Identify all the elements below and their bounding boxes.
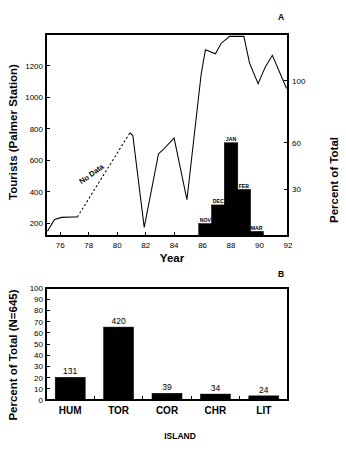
panel-b-category-label: COR (156, 405, 179, 416)
panel-b-bar (55, 377, 85, 400)
figure-background (0, 0, 346, 452)
panel-b-bar (104, 327, 134, 400)
inset-bar (224, 143, 238, 236)
y-tick-label: 50 (34, 340, 43, 349)
panel-b-category-label: TOR (108, 405, 130, 416)
panel-b-bar-count-label: 39 (162, 382, 172, 392)
panel-b-category-label: HUM (59, 405, 82, 416)
panel-b-bar (200, 394, 230, 400)
inset-bar-label: MAR (251, 225, 263, 231)
y2-tick-label: 30 (292, 185, 301, 194)
x-tick-label: 90 (255, 241, 264, 250)
y-tick-label: 30 (34, 362, 43, 371)
y-tick-label: 0 (39, 396, 44, 405)
panel-b-y-axis-title: Percent of Total (N=645) (7, 289, 19, 420)
inset-bar (212, 205, 226, 236)
y-tick-label: 70 (34, 318, 43, 327)
x-tick-label: 88 (227, 241, 236, 250)
inset-bar (199, 224, 213, 236)
x-tick-label: 86 (198, 241, 207, 250)
panel-b-category-label: LIT (256, 405, 271, 416)
panel-a-label: A (278, 12, 284, 22)
panel-b-bar-count-label: 420 (112, 316, 126, 326)
y-tick-label: 60 (34, 329, 43, 338)
panel-b-label: B (278, 269, 284, 279)
y-tick-label: 800 (30, 125, 44, 134)
inset-bar (250, 231, 264, 236)
y-tick-label: 10 (34, 385, 43, 394)
y-tick-label: 20 (34, 374, 43, 383)
y-tick-label: 100 (30, 284, 44, 293)
y-tick-label: 200 (30, 219, 44, 228)
inset-bar-label: JAN (226, 136, 237, 142)
panel-b-bar-count-label: 131 (63, 366, 77, 376)
panel-b-bar (152, 393, 182, 400)
x-tick-label: 76 (56, 241, 65, 250)
panel-b-x-axis-title: ISLAND (164, 431, 196, 441)
inset-bar-label: FEB (239, 183, 250, 189)
inset-bar (237, 189, 251, 236)
y2-tick-label: 100 (292, 77, 306, 86)
panel-b-bar-count-label: 34 (211, 383, 221, 393)
y-tick-label: 40 (34, 351, 43, 360)
x-tick-label: 80 (113, 241, 122, 250)
x-tick-label: 82 (141, 241, 150, 250)
panel-a-x-axis-title: Year (160, 252, 185, 264)
y-tick-label: 1000 (25, 93, 43, 102)
y-tick-label: 90 (34, 295, 43, 304)
y-tick-label: 600 (30, 156, 44, 165)
scientific-figure: A 20040060080010001200 3060100 767880828… (0, 0, 346, 452)
inset-bar-label: DEC (213, 198, 224, 204)
y-tick-label: 1200 (25, 62, 43, 71)
y2-tick-label: 60 (292, 139, 301, 148)
y-tick-label: 80 (34, 306, 43, 315)
x-tick-label: 78 (84, 241, 93, 250)
x-tick-label: 92 (284, 241, 293, 250)
panel-a-y2-axis-title: Percent of Total (328, 137, 340, 223)
panel-b-bar-count-label: 24 (259, 385, 269, 395)
panel-b-bar (249, 396, 279, 400)
x-tick-label: 84 (170, 241, 179, 250)
panel-a-y-axis-title: Tourists (Palmer Station) (7, 64, 19, 200)
panel-b-category-label: CHR (205, 405, 227, 416)
y-tick-label: 400 (30, 188, 44, 197)
figure-canvas: A 20040060080010001200 3060100 767880828… (0, 0, 346, 452)
inset-bar-label: NOV (200, 217, 212, 223)
